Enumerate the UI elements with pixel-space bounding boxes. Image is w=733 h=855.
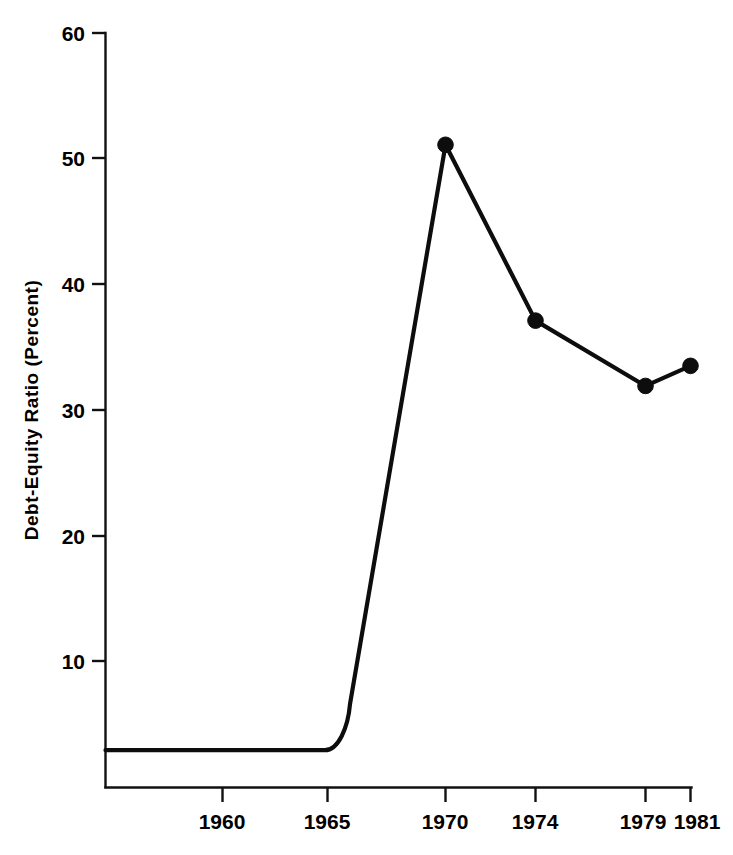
data-point-1979	[638, 378, 654, 394]
x-tick-label-1974: 1974	[512, 810, 559, 833]
chart-background	[0, 0, 733, 855]
x-tick-label-1965: 1965	[304, 810, 351, 833]
y-tick-label-40: 40	[62, 273, 85, 296]
y-axis-title: Debt-Equity Ratio (Percent)	[21, 280, 42, 541]
y-tick-label-10: 10	[62, 650, 85, 673]
y-tick-label-50: 50	[62, 147, 85, 170]
x-tick-label-1960: 1960	[199, 810, 246, 833]
x-tick-label-1981: 1981	[674, 810, 721, 833]
line-chart-canvas: 60 50 40 30 20 10 1960 1965 1970 1974 19…	[0, 0, 733, 855]
x-tick-label-1970: 1970	[422, 810, 469, 833]
chart-figure: 60 50 40 30 20 10 1960 1965 1970 1974 19…	[0, 0, 733, 855]
y-tick-label-60: 60	[62, 22, 85, 45]
y-tick-label-20: 20	[62, 525, 85, 548]
data-point-1974	[528, 313, 544, 329]
x-tick-label-1979: 1979	[620, 810, 667, 833]
y-tick-label-30: 30	[62, 399, 85, 422]
data-point-1981	[683, 358, 699, 374]
data-point-1970	[438, 137, 454, 153]
